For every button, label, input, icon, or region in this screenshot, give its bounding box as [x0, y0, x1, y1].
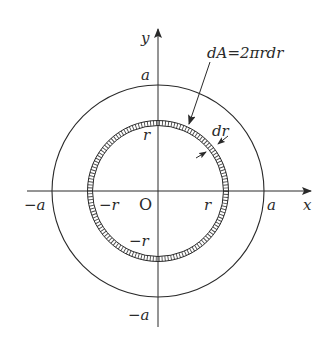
tick-x-neg-r: −r [99, 196, 120, 214]
diagram-canvas: y x O dA=2πrdr dr a r −r −a −a −r r a [0, 0, 335, 343]
tick-x-pos-a: a [267, 196, 276, 214]
tick-x-pos-r: r [204, 196, 212, 214]
tick-x-neg-a: −a [24, 196, 46, 214]
polar-area-diagram: y x O dA=2πrdr dr a r −r −a −a −r r a [0, 0, 335, 343]
origin-label: O [139, 195, 152, 214]
formula-label: dA=2πrdr [207, 44, 284, 62]
dA-leader-arrow [189, 62, 210, 124]
x-axis-label: x [303, 196, 312, 214]
tick-y-pos-a: a [141, 66, 150, 84]
dr-arrow-inner [196, 152, 206, 158]
tick-y-neg-r: −r [129, 232, 150, 250]
dr-label: dr [212, 122, 230, 140]
tick-y-pos-r: r [143, 126, 151, 144]
tick-y-neg-a: −a [128, 306, 150, 324]
y-axis-label: y [140, 29, 150, 47]
